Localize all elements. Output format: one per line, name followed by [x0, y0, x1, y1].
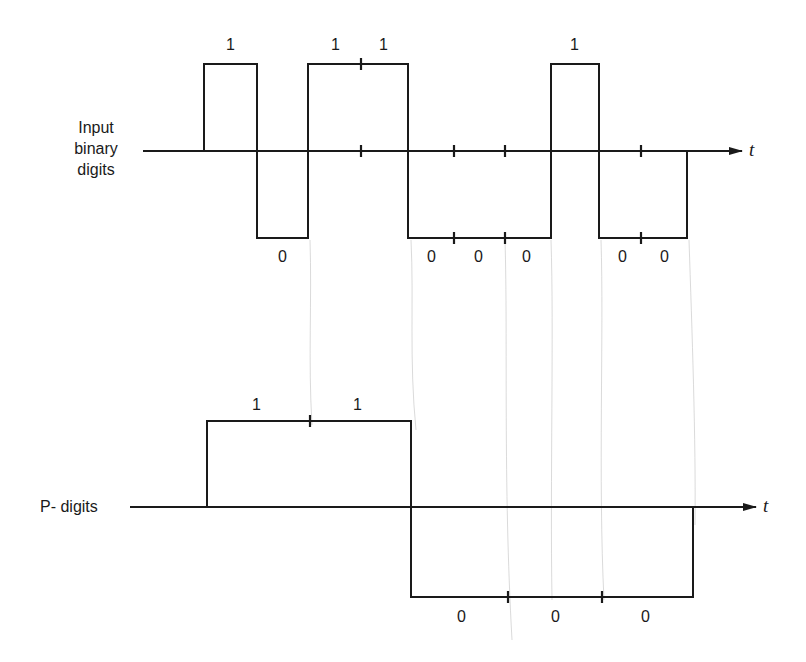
- bottom-bit-label: 1: [353, 397, 362, 413]
- top-bit-label: 1: [570, 37, 579, 53]
- input-binary-waveform: [143, 58, 742, 244]
- bottom-bit-label: 1: [252, 397, 261, 413]
- time-axis-symbol-bottom: t: [763, 496, 768, 515]
- p-digits-label: P- digits: [40, 499, 98, 515]
- top-bit-label: 0: [474, 249, 483, 265]
- waveform-diagram: [0, 0, 806, 662]
- top-bit-label: 0: [427, 249, 436, 265]
- bit-boundary-ticks-bottom: [310, 415, 602, 603]
- bottom-bit-label: 0: [551, 609, 560, 625]
- bottom-bit-label: 0: [641, 609, 650, 625]
- time-axis-symbol-top: t: [749, 140, 754, 159]
- p-digits-waveform: [130, 415, 756, 603]
- label-line-1: Input: [56, 117, 136, 138]
- input-binary-digits-label: Input binary digits: [56, 117, 136, 180]
- p-signal-trace: [207, 421, 693, 597]
- top-bit-label: 0: [660, 249, 669, 265]
- top-bit-label: 0: [618, 249, 627, 265]
- top-bit-label: 0: [522, 249, 531, 265]
- alignment-guides: [310, 240, 695, 640]
- label-line-3: digits: [56, 159, 136, 180]
- label-line-2: binary: [56, 138, 136, 159]
- bottom-bit-label: 0: [457, 609, 466, 625]
- top-bit-label: 1: [331, 37, 340, 53]
- top-bit-label: 1: [379, 37, 388, 53]
- top-bit-label: 0: [278, 249, 287, 265]
- top-bit-label: 1: [226, 37, 235, 53]
